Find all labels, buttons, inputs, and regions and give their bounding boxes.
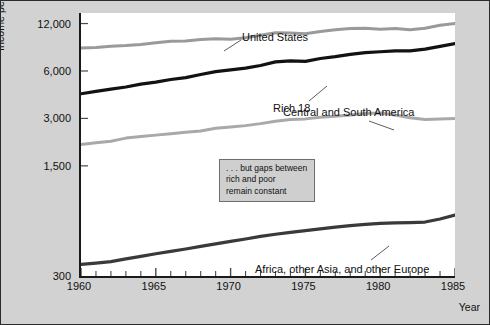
- y-axis-tick-label: 6,000: [15, 65, 71, 77]
- x-axis-title: Year: [459, 301, 480, 313]
- plot-area: [79, 13, 455, 278]
- x-axis-tick-label: 1980: [366, 280, 390, 292]
- x-axis-tick-label: 1960: [67, 280, 91, 292]
- series-leader-line-0: [224, 40, 241, 51]
- x-axis-tick-label: 1970: [216, 280, 240, 292]
- annotation-callout: . . . but gaps between rich and poor rem…: [219, 159, 315, 202]
- series-leader-line-2: [369, 121, 394, 130]
- chart-figure: Income per person (1980 dollars, ratio s…: [0, 0, 490, 325]
- annotation-line-2: rich and poor: [226, 174, 309, 185]
- y-axis-tick-label: 1,500: [15, 160, 71, 172]
- x-axis-tick-label: 1965: [142, 280, 166, 292]
- series-leader-line-1: [309, 86, 327, 101]
- y-axis-title: Income per person (1980 dollars, ratio s…: [0, 0, 6, 51]
- y-axis-tick-labels: 12,0006,0003,0001,500300: [13, 1, 71, 325]
- annotation-line-1: . . . but gaps between: [226, 163, 309, 174]
- x-axis-tick-label: 1975: [291, 280, 315, 292]
- y-axis-tick-label: 300: [15, 270, 71, 282]
- series-label-2: Central and South America: [283, 106, 414, 118]
- series-label-0: United States: [242, 31, 308, 43]
- series-label-3: Africa, other Asia, and other Europe: [255, 263, 429, 275]
- x-axis-tick-label: 1985: [441, 280, 465, 292]
- y-axis-tick-label: 12,000: [15, 18, 71, 30]
- series-line-1: [81, 44, 455, 94]
- series-line-3: [81, 215, 455, 264]
- plot-svg: [81, 13, 455, 276]
- y-axis-tick-label: 3,000: [15, 112, 71, 124]
- series-leader-line-3: [371, 246, 389, 260]
- annotation-line-3: remain constant: [226, 186, 309, 197]
